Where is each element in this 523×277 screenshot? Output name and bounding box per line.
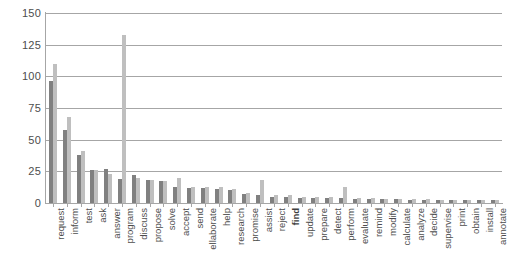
x-axis-tick — [115, 203, 129, 207]
bar-group — [364, 13, 378, 203]
bar-group — [474, 13, 488, 203]
x-axis-tick — [378, 203, 392, 207]
bar-group — [433, 13, 447, 203]
x-axis-label-cell: find — [281, 208, 295, 277]
x-axis-tick — [433, 203, 447, 207]
bar — [163, 181, 167, 203]
y-axis-tick-label: 125 — [1, 40, 41, 51]
bar — [232, 189, 236, 203]
x-axis-label-cell: solve — [157, 208, 171, 277]
bar — [108, 174, 112, 203]
x-axis-label-cell: perform — [336, 208, 350, 277]
bar-group — [308, 13, 322, 203]
x-axis-label-cell: propose — [143, 208, 157, 277]
bar-group — [295, 13, 309, 203]
bar-group — [253, 13, 267, 203]
x-axis-ticks — [46, 203, 502, 207]
x-axis-tick — [60, 203, 74, 207]
bar-group — [419, 13, 433, 203]
y-axis-tick-label: 75 — [1, 103, 41, 114]
y-axis-tick-label: 0 — [1, 198, 41, 209]
x-axis-tick — [460, 203, 474, 207]
y-axis-tick-label: 100 — [1, 71, 41, 82]
x-axis-tick — [267, 203, 281, 207]
x-axis-tick — [364, 203, 378, 207]
bar-group — [391, 13, 405, 203]
bar — [150, 180, 154, 203]
x-axis-label-cell: promise — [239, 208, 253, 277]
x-axis-label-cell: decide — [419, 208, 433, 277]
bar-group — [170, 13, 184, 203]
bar-group — [60, 13, 74, 203]
x-axis-label-cell: program — [115, 208, 129, 277]
x-axis-label-cell: reject — [267, 208, 281, 277]
y-axis-tick-label: 150 — [1, 8, 41, 19]
bar — [288, 195, 292, 203]
y-axis-labels: 0255075100125150 — [0, 0, 41, 277]
bar — [53, 64, 57, 203]
bar — [94, 170, 98, 203]
x-axis-label-cell: analyze — [405, 208, 419, 277]
x-axis-tick — [322, 203, 336, 207]
x-axis-label-cell: remind — [364, 208, 378, 277]
bar — [191, 187, 195, 203]
bar — [246, 193, 250, 203]
x-axis-label-cell: annotate — [488, 208, 502, 277]
bar-group — [226, 13, 240, 203]
x-axis-label-cell: assist — [253, 208, 267, 277]
bar — [219, 187, 223, 203]
x-axis-label-cell: inform — [60, 208, 74, 277]
y-axis-tick-label: 25 — [1, 166, 41, 177]
bar-group — [488, 13, 502, 203]
bar-group — [101, 13, 115, 203]
bar — [81, 151, 85, 203]
bar-group — [46, 13, 60, 203]
x-axis-label-cell: help — [212, 208, 226, 277]
x-axis-label-cell: test — [74, 208, 88, 277]
bar-series-group — [46, 13, 502, 203]
x-axis-tick — [391, 203, 405, 207]
x-axis-tick — [419, 203, 433, 207]
x-axis-label-cell: send — [184, 208, 198, 277]
x-axis-label-cell: request — [46, 208, 60, 277]
bar-group — [212, 13, 226, 203]
x-axis-tick — [170, 203, 184, 207]
bar-group — [157, 13, 171, 203]
x-axis-tick — [447, 203, 461, 207]
x-axis-tick — [295, 203, 309, 207]
bar-group — [129, 13, 143, 203]
bar-group — [87, 13, 101, 203]
bar-group — [115, 13, 129, 203]
bar — [136, 178, 140, 203]
x-axis-label-cell: supervise — [433, 208, 447, 277]
bar-group — [281, 13, 295, 203]
x-axis-tick — [101, 203, 115, 207]
bar-group — [322, 13, 336, 203]
x-axis-tick — [184, 203, 198, 207]
bar-group — [143, 13, 157, 203]
bar — [343, 187, 347, 203]
x-axis-tick — [281, 203, 295, 207]
bar — [274, 195, 278, 203]
bar-group — [336, 13, 350, 203]
x-axis-label-cell: install — [474, 208, 488, 277]
x-axis-label-cell: answer — [101, 208, 115, 277]
y-axis-tick-label: 50 — [1, 135, 41, 146]
bar-group — [460, 13, 474, 203]
x-axis-label-cell: print — [447, 208, 461, 277]
bar — [177, 178, 181, 203]
bar — [67, 117, 71, 203]
bar — [260, 180, 264, 203]
bar-group — [239, 13, 253, 203]
bar-chart: 0255075100125150 requestinformtestaskans… — [0, 0, 523, 277]
x-axis-tick — [157, 203, 171, 207]
bar — [122, 35, 126, 203]
x-axis-label-cell: calculate — [391, 208, 405, 277]
x-axis-tick — [405, 203, 419, 207]
x-axis-label-cell: update — [295, 208, 309, 277]
x-axis-tick — [226, 203, 240, 207]
x-axis-tick — [198, 203, 212, 207]
bar-group — [198, 13, 212, 203]
x-axis-tick — [212, 203, 226, 207]
x-axis-tick — [74, 203, 88, 207]
